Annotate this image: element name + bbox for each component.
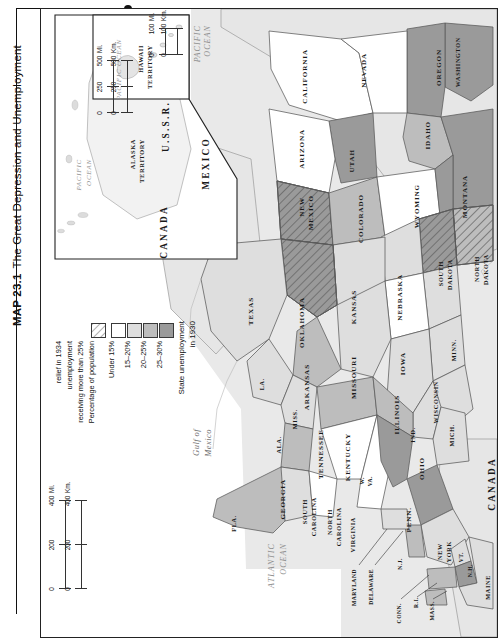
scale-main-mi-tick-0: 0 <box>48 587 55 591</box>
caption-title: The Great Depression and Unemployment <box>11 45 23 268</box>
legend-label-hatch-line3: unemployment <box>65 341 74 389</box>
scale-main-mi-unit: Mi. <box>48 484 55 493</box>
legend-swatch-20-25 <box>143 323 158 338</box>
legend-swatch-15-20 <box>127 323 142 338</box>
caption-number: MAP 23.1 <box>11 273 23 326</box>
map-page: MAP 23.1 The Great Depression and Unempl… <box>0 0 500 643</box>
scale-bar-alaska-km: 0 250 500 Km. <box>119 61 135 113</box>
map-caption: MAP 23.1 The Great Depression and Unempl… <box>6 0 28 326</box>
legend-label-hatch-line4: relief in 1934 <box>54 341 63 383</box>
legend-label-25-30: 25–30% <box>155 341 164 368</box>
scale-hawaii-km-unit: Km. <box>160 10 167 21</box>
legend-title-line2: in 1930 <box>188 321 199 347</box>
map-legend: State unemployment in 1930 25–30% 20–25%… <box>59 321 187 453</box>
scale-bar-alaska-mi: 0 250 500 Mi. <box>105 61 121 113</box>
scale-alaska-mi-tick-0: 0 <box>96 111 103 115</box>
legend-swatch-hatched <box>91 323 106 338</box>
scale-main-mi-tick-1: 200 <box>48 540 55 551</box>
legend-label-20-25: 20–25% <box>139 341 148 368</box>
scale-alaska-mi-tick-1: 250 <box>96 82 103 93</box>
legend-label-15-20: 15–20% <box>123 341 132 368</box>
scale-alaska-mi-tick-2: 500 <box>96 56 103 67</box>
scale-alaska-km-unit: Km. <box>110 42 117 53</box>
legend-hatch-pattern <box>92 324 105 337</box>
legend-title-line1: State unemployment <box>177 321 188 394</box>
scale-hawaii-mi-tick-1: 100 <box>148 24 155 35</box>
legend-label-hatch-line2: receiving more than 25% <box>76 341 85 423</box>
scale-bar-main-mi: 0 200 400 Mi. <box>57 501 73 589</box>
scale-main-km-unit: Km. <box>64 482 71 493</box>
scale-alaska-mi-unit: Mi. <box>96 44 103 53</box>
scale-bar-hawaii-mi: 0 100 Mi. <box>157 29 173 55</box>
scale-hawaii-mi-unit: Mi. <box>148 12 155 21</box>
legend-label-hatch-line1: Percentage of population <box>87 341 96 423</box>
legend-swatch-under-15 <box>111 323 126 338</box>
legend-swatch-25-30 <box>159 323 174 338</box>
scale-bar-main-km: 0 200 400 Km. <box>73 501 89 589</box>
scale-hawaii-mi-tick-0: 0 <box>148 53 155 57</box>
scale-main-mi-tick-2: 400 <box>48 496 55 507</box>
map-frame: WASHINGTONOREGONCALIFORNIANEVADAIDAHOMON… <box>40 8 498 638</box>
legend-label-under-15: Under 15% <box>107 341 116 378</box>
